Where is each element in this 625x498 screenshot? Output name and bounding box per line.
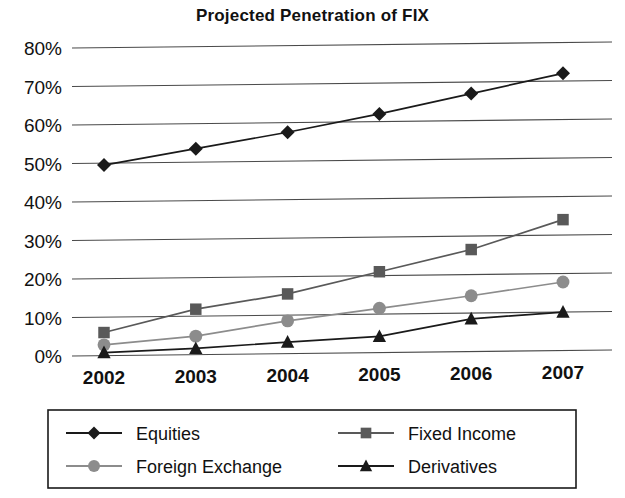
square-marker: [190, 303, 201, 314]
diamond-marker: [88, 427, 101, 440]
y-axis-tick-label: 50%: [24, 154, 62, 175]
square-marker: [374, 266, 385, 277]
y-axis-tick-label: 80%: [24, 38, 62, 59]
gridline: [72, 273, 612, 279]
line-chart: 0%10%20%30%40%50%60%70%80% 2002200320042…: [0, 0, 625, 498]
legend-label: Foreign Exchange: [136, 457, 282, 477]
y-axis-tick-label: 20%: [24, 269, 62, 290]
y-axis-tick-label: 70%: [24, 77, 62, 98]
legend-item-foreign-exchange[interactable]: Foreign Exchange: [66, 457, 282, 477]
series-line: [104, 73, 563, 165]
diamond-marker: [464, 87, 478, 101]
legend-item-equities[interactable]: Equities: [66, 424, 200, 444]
square-marker: [98, 327, 109, 338]
square-marker: [557, 214, 568, 225]
square-marker: [282, 288, 293, 299]
square-marker: [361, 428, 372, 439]
y-axis-tick-label: 40%: [24, 192, 62, 213]
legend-item-derivatives[interactable]: Derivatives: [338, 457, 497, 477]
diamond-marker: [281, 125, 295, 139]
circle-marker: [373, 302, 386, 315]
y-axis-tick-label: 10%: [24, 308, 62, 329]
gridline: [72, 196, 612, 202]
y-axis-tick-label: 60%: [24, 115, 62, 136]
diamond-marker: [97, 158, 111, 172]
chart-container: Projected Penetration of FIX 0%10%20%30%…: [0, 0, 625, 498]
gridlines-group: [72, 42, 612, 356]
triangle-marker: [556, 305, 569, 318]
gridline: [72, 81, 612, 87]
x-axis-tick-label: 2004: [266, 365, 309, 386]
x-axis-tick-label: 2005: [358, 364, 401, 385]
x-axis-tick-labels: 200220032004200520062007: [83, 362, 584, 388]
diamond-marker: [556, 66, 570, 80]
legend-label: Derivatives: [408, 457, 497, 477]
y-axis-tick-label: 0%: [35, 346, 63, 367]
square-marker: [465, 244, 476, 255]
x-axis-tick-label: 2003: [175, 366, 217, 387]
series-line: [104, 282, 563, 345]
diamond-marker: [189, 142, 203, 156]
circle-marker: [465, 289, 478, 302]
circle-marker: [88, 460, 100, 472]
diamond-marker: [372, 107, 386, 121]
y-axis-tick-label: 30%: [24, 231, 62, 252]
legend-label: Equities: [136, 424, 200, 444]
legend-label: Fixed Income: [408, 424, 516, 444]
x-axis-tick-label: 2006: [450, 363, 492, 384]
circle-marker: [189, 330, 202, 343]
legend-item-fixed-income[interactable]: Fixed Income: [338, 424, 516, 444]
gridline: [72, 235, 612, 241]
gridline: [72, 158, 612, 164]
gridline: [72, 42, 612, 48]
series-line: [104, 312, 563, 353]
circle-marker: [281, 314, 294, 327]
chart-legend: EquitiesFixed IncomeForeign ExchangeDeri…: [48, 410, 576, 488]
x-axis-tick-label: 2007: [542, 362, 584, 383]
data-series-group: [97, 66, 570, 358]
x-axis-tick-label: 2002: [83, 367, 125, 388]
y-axis-tick-labels: 0%10%20%30%40%50%60%70%80%: [24, 38, 62, 367]
circle-marker: [557, 276, 570, 289]
